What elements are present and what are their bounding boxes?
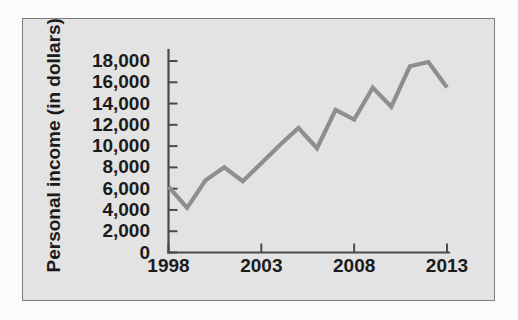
y-tick-label-10000: 10,000 bbox=[92, 136, 150, 155]
y-tick-label-8000: 8,000 bbox=[102, 157, 150, 176]
x-tick-label-2013: 2013 bbox=[426, 256, 468, 275]
page-background: 18,00016,00014,00012,00010,0008,0006,000… bbox=[0, 0, 518, 320]
y-tick-label-16000: 16,000 bbox=[92, 72, 150, 91]
y-tick-label-4000: 4,000 bbox=[102, 200, 150, 219]
x-tick-label-1998: 1998 bbox=[147, 256, 189, 275]
y-tick-label-6000: 6,000 bbox=[102, 179, 150, 198]
y-tick-label-2000: 2,000 bbox=[102, 221, 150, 240]
y-axis-title: Personal income (in dollars) bbox=[44, 43, 63, 273]
y-tick-label-14000: 14,000 bbox=[92, 94, 150, 113]
x-tick-label-2003: 2003 bbox=[240, 256, 282, 275]
x-axis-tick-labels: 1998200320082013 bbox=[0, 256, 518, 286]
y-tick-label-18000: 18,000 bbox=[92, 51, 150, 70]
y-tick-label-12000: 12,000 bbox=[92, 115, 150, 134]
x-tick-label-2008: 2008 bbox=[333, 256, 375, 275]
